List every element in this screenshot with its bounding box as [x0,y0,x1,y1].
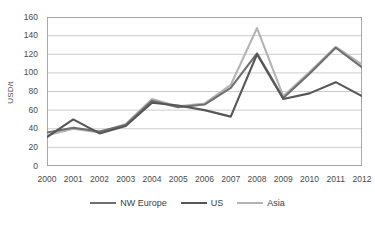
legend-label: US [211,198,224,208]
x-axis-tick-label: 2011 [322,174,350,184]
x-axis-tick-label: 2006 [191,174,219,184]
y-axis-tick-label: 20 [14,142,38,152]
legend-item[interactable]: US [181,198,224,208]
legend-label: Asia [267,198,285,208]
x-axis-tick-label: 2008 [243,174,271,184]
x-axis-tick-label: 2010 [296,174,324,184]
y-axis-tick-label: 140 [14,30,38,40]
x-axis-tick-label: 2002 [86,174,114,184]
legend-item[interactable]: NW Europe [90,198,167,208]
plot-area [47,17,362,166]
y-axis-tick-label: 0 [14,161,38,171]
series-line [47,28,362,135]
x-axis-tick-label: 2001 [59,174,87,184]
y-axis-tick-label: 80 [14,86,38,96]
legend-item[interactable]: Asia [237,198,285,208]
y-axis-tick-label: 120 [14,49,38,59]
y-axis-tick-label: 100 [14,67,38,77]
legend-swatch-icon [90,202,116,204]
x-axis-tick-label: 2004 [138,174,166,184]
x-axis-tick-label: 2007 [217,174,245,184]
x-axis-tick-label: 2003 [112,174,140,184]
x-axis-tick-label: 2012 [348,174,375,184]
legend-label: NW Europe [120,198,167,208]
x-axis-tick-label: 2000 [33,174,61,184]
plot-svg [47,17,362,166]
chart-legend: NW EuropeUSAsia [0,198,375,208]
y-axis-tick-label: 160 [14,12,38,22]
x-axis-tick-label: 2005 [164,174,192,184]
legend-swatch-icon [181,202,207,204]
line-chart: USD/t 020406080100120140160 200020012002… [0,0,375,226]
x-axis-tick-label: 2009 [269,174,297,184]
legend-swatch-icon [237,202,263,204]
y-axis-tick-label: 60 [14,105,38,115]
y-axis-tick-label: 40 [14,123,38,133]
